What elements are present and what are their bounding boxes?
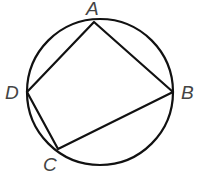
label-d: D [5, 82, 19, 103]
label-c: C [43, 154, 57, 171]
circumcircle [27, 19, 173, 165]
cyclic-quadrilateral-diagram: A B C D [0, 0, 198, 171]
label-a: A [85, 0, 99, 19]
label-b: B [181, 82, 194, 103]
